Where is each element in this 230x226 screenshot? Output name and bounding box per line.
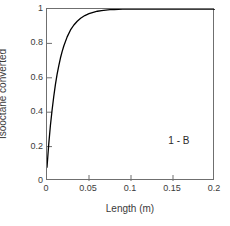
x-axis-ticks <box>89 175 173 181</box>
x-tick-label-1: 0.05 <box>79 183 97 193</box>
y-tick-label-5: 1 <box>38 3 43 13</box>
x-axis-label: Length (m) <box>46 203 214 214</box>
series-annotation-label: 1 - B <box>168 135 189 146</box>
y-tick-label-1: 0.2 <box>30 141 43 151</box>
plot-area: 1 - B <box>46 8 214 180</box>
x-tick-label-0: 0 <box>43 183 48 193</box>
chart-figure: Isooctane converted 1 0.8 0.6 0.4 0.2 0 <box>0 0 230 226</box>
y-tick-label-3: 0.6 <box>30 72 43 82</box>
plot-canvas <box>47 9 215 181</box>
x-tick-label-2: 0.1 <box>124 183 137 193</box>
y-tick-label-0: 0 <box>38 175 43 185</box>
x-tick-label-3: 0.15 <box>163 183 181 193</box>
data-series-line <box>47 9 215 167</box>
x-tick-label-4: 0.2 <box>208 183 221 193</box>
y-tick-label-4: 0.8 <box>30 37 43 47</box>
y-axis-label: Isooctane converted <box>0 49 8 139</box>
y-tick-label-2: 0.4 <box>30 106 43 116</box>
